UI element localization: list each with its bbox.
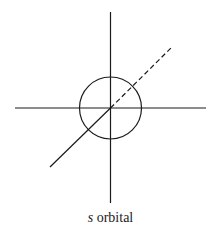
figure-caption: s orbital <box>0 210 215 226</box>
s-orbital-diagram <box>0 0 215 240</box>
caption-text: orbital <box>93 210 133 225</box>
